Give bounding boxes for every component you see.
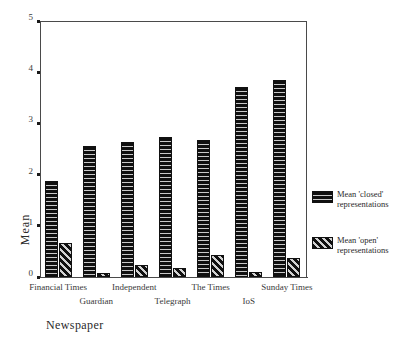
bar-group xyxy=(235,21,262,277)
x-axis-category-label: Sunday Times xyxy=(247,282,327,292)
y-axis-tick-label: 2 xyxy=(29,167,34,176)
y-axis-tick-label: 5 xyxy=(29,13,34,22)
bar xyxy=(97,273,110,277)
bar-group xyxy=(197,21,224,277)
bar xyxy=(59,243,72,277)
bar xyxy=(273,80,286,277)
x-axis-category-label: Independent xyxy=(94,282,174,292)
y-axis-title: Mean xyxy=(18,195,33,265)
bar xyxy=(83,146,96,277)
bar xyxy=(45,181,58,277)
bar-group xyxy=(273,21,300,277)
y-axis-tick-label: 3 xyxy=(29,115,34,124)
bar-group xyxy=(121,21,148,277)
diagonal-stripe-swatch xyxy=(312,237,333,249)
legend-label-line2: representations xyxy=(337,245,414,255)
tick-mark xyxy=(37,20,40,23)
tick-mark xyxy=(37,224,40,227)
x-axis-category-label: Guardian xyxy=(56,296,136,306)
x-axis-category-label: Financial Times xyxy=(18,282,98,292)
bar-chart-figure: 012345 Mean Financial TimesGuardianIndep… xyxy=(0,0,414,340)
bar xyxy=(235,87,248,277)
bar-group xyxy=(83,21,110,277)
bar xyxy=(249,272,262,277)
y-axis-tick-label: 4 xyxy=(29,64,34,73)
legend-label: Mean 'closed'representations xyxy=(337,189,414,209)
bar xyxy=(173,268,186,277)
tick-mark xyxy=(37,276,40,279)
x-axis-category-label: IoS xyxy=(209,296,289,306)
legend-label-line2: representations xyxy=(337,199,414,209)
x-axis-category-label: The Times xyxy=(171,282,251,292)
x-axis-title: Newspaper xyxy=(46,318,104,333)
x-axis-category-label: Telegraph xyxy=(133,296,213,306)
tick-mark xyxy=(37,122,40,125)
bar xyxy=(159,137,172,277)
y-axis-tick-label: 0 xyxy=(29,269,34,278)
bar xyxy=(211,255,224,277)
bar xyxy=(135,265,148,277)
bar-group xyxy=(159,21,186,277)
tick-mark xyxy=(37,173,40,176)
legend-label: Mean 'open'representations xyxy=(337,235,414,255)
tick-mark xyxy=(37,71,40,74)
bar xyxy=(287,258,300,277)
legend-label-line1: Mean 'closed' xyxy=(337,189,383,199)
x-axis-line xyxy=(40,277,308,278)
bar-group xyxy=(45,21,72,277)
y-axis-line xyxy=(40,21,41,278)
legend-label-line1: Mean 'open' xyxy=(337,235,378,245)
horizontal-stripe-swatch xyxy=(312,191,333,203)
bar xyxy=(197,140,210,277)
bar xyxy=(121,142,134,277)
